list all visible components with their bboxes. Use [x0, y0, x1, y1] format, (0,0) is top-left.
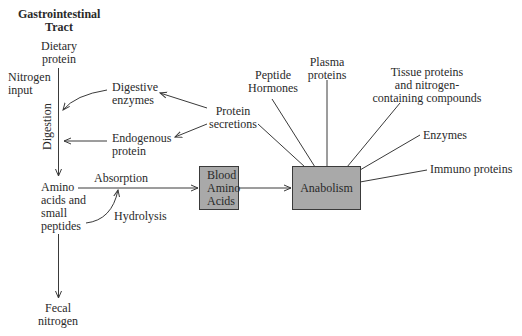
text: protein — [38, 53, 80, 66]
text: Anabolism — [293, 182, 360, 195]
label-dietary-protein: Dietary protein — [38, 40, 80, 66]
text: secretions — [206, 118, 260, 131]
blood-amino-acids-box: Blood Amino Acids — [199, 166, 239, 210]
text: input — [8, 84, 51, 97]
label-plasma-proteins: Plasma proteins — [302, 56, 352, 82]
section-title: Gastrointestinal Tract — [18, 8, 100, 34]
label-tissue-proteins: Tissue proteins and nitrogen- containing… — [362, 66, 492, 105]
text: containing compounds — [362, 92, 492, 105]
text: peptides — [41, 220, 86, 233]
label-digestion: Digestion — [40, 103, 55, 150]
label-immuno-proteins: Immuno proteins — [430, 163, 512, 176]
text: nitrogen — [34, 315, 82, 328]
text: protein — [112, 145, 171, 158]
line-immuno-proteins — [360, 170, 427, 182]
label-nitrogen-input: Nitrogen input — [8, 71, 51, 97]
label-fecal-nitrogen: Fecal nitrogen — [34, 302, 82, 328]
enzymes-curve — [63, 90, 107, 110]
text: Acids — [207, 195, 238, 208]
text: proteins — [302, 69, 352, 82]
anabolism-to-secretions-line — [258, 124, 305, 167]
label-amino-acids: Amino acids and small peptides — [41, 181, 86, 233]
text: Hormones — [246, 82, 300, 95]
label-digestive-enzymes: Digestive enzymes — [112, 81, 158, 107]
line-tissue-proteins — [347, 103, 400, 167]
text: enzymes — [112, 94, 158, 107]
secretions-to-enzymes-arrow — [160, 93, 207, 108]
label-peptide-hormones: Peptide Hormones — [246, 69, 300, 95]
anabolism-box: Anabolism — [292, 166, 361, 210]
label-enzymes: Enzymes — [423, 129, 467, 142]
label-absorption: Absorption — [94, 172, 148, 185]
secretions-to-endogenous-arrow — [175, 124, 207, 137]
title-line-2: Tract — [18, 21, 100, 34]
label-protein-secretions: Protein secretions — [206, 105, 260, 131]
label-hydrolysis: Hydrolysis — [114, 210, 167, 223]
label-endogenous-protein: Endogenous protein — [112, 132, 171, 158]
